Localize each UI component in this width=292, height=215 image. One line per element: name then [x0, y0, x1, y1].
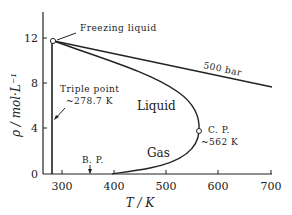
freezing-liquid-point	[50, 38, 55, 43]
x-tick-700: 700	[261, 180, 282, 193]
triple-point-temp: ~278.7 K	[66, 96, 113, 106]
triple-point-label: Triple point	[60, 84, 119, 94]
boiling-point-arrowhead	[88, 169, 92, 174]
phase-diagram-chart: 0 4 8 12 300 400 500 600 700 T / K ρ / m…	[0, 0, 292, 215]
x-axis-title: T / K	[126, 196, 156, 210]
x-tick-400: 400	[104, 180, 125, 193]
y-tick-8: 8	[31, 77, 38, 90]
freezing-liquid-label: Freezing liquid	[80, 23, 157, 33]
liquid-region-label: Liquid	[137, 99, 176, 113]
y-axis-title: ρ / mol·L⁻¹	[9, 73, 23, 138]
boiling-point-label: B. P.	[82, 155, 104, 165]
y-tick-0: 0	[31, 168, 38, 181]
y-tick-12: 12	[24, 32, 38, 45]
isobar-500-bar	[54, 41, 272, 87]
critical-point	[197, 129, 202, 134]
freezing-liquid-pointer	[57, 33, 76, 40]
x-tick-300: 300	[52, 180, 73, 193]
y-tick-4: 4	[31, 122, 38, 135]
coexistence-curve	[54, 41, 199, 174]
x-tick-500: 500	[156, 180, 177, 193]
critical-point-label: C. P.	[208, 125, 230, 135]
x-tick-600: 600	[208, 180, 229, 193]
critical-point-temp: ~562 K	[201, 137, 238, 147]
isobar-label: 500 bar	[203, 60, 243, 78]
gas-region-label: Gas	[147, 146, 170, 160]
